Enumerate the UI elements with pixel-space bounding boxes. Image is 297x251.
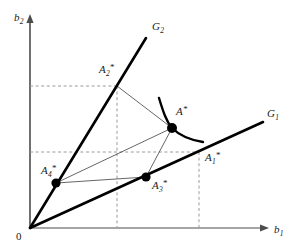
connector-lines-group — [56, 86, 172, 183]
point-label-a1-star-glyph: * — [216, 150, 221, 160]
point-label-a3-base: A — [152, 179, 159, 191]
ray-g2-label-subscript: 2 — [160, 26, 164, 35]
x-axis-label: b1 — [274, 224, 283, 235]
x-axis-label-base: b — [274, 223, 280, 235]
y-axis-label-base: b — [14, 11, 20, 23]
y-axis-arrowhead — [26, 14, 33, 23]
point-label-a-base: A — [176, 105, 183, 117]
point-label-a4-star: A4* — [41, 165, 56, 176]
ray-g1-label-base: G — [267, 107, 275, 119]
ray-g2-label-base: G — [152, 20, 160, 32]
ray-g1-label: G1 — [267, 108, 279, 119]
guide-lines-group — [30, 86, 199, 228]
connector-a2-to-astar — [117, 86, 172, 128]
y-axis-label: b2 — [14, 12, 23, 23]
figure-canvas: b2 b1 0 G2 G1 A2* A* A1* A3* A4* — [0, 0, 297, 251]
ray-g1-label-subscript: 1 — [275, 113, 279, 122]
point-label-a2-star-glyph: * — [110, 62, 115, 72]
point-label-a3-star-glyph: * — [163, 178, 168, 188]
axes-group — [26, 14, 269, 231]
point-label-a3-star: A3* — [152, 180, 167, 191]
origin-label: 0 — [16, 231, 22, 242]
point-label-a1-base: A — [205, 151, 212, 163]
point-label-a4-base: A — [41, 164, 48, 176]
marker-a-star — [167, 123, 177, 133]
ray-g2-label: G2 — [152, 21, 164, 32]
point-label-a2-base: A — [99, 63, 106, 75]
point-label-a-star: A* — [176, 106, 187, 117]
point-label-a2-star: A2* — [99, 64, 114, 75]
point-label-a4-star-glyph: * — [52, 163, 57, 173]
ray-g2-line — [30, 38, 146, 228]
diagram-svg — [0, 0, 297, 251]
point-label-a1-star: A1* — [205, 152, 220, 163]
point-label-a-star-glyph: * — [183, 104, 188, 114]
marker-a4-star — [51, 178, 60, 187]
x-axis-arrowhead — [260, 225, 269, 232]
marker-a3-star — [141, 172, 150, 181]
y-axis-label-subscript: 2 — [20, 17, 24, 26]
x-axis-label-subscript: 1 — [280, 229, 284, 238]
